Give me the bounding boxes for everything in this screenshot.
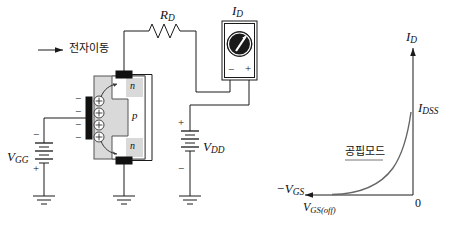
ammeter-dial — [227, 32, 252, 57]
drain-wire — [124, 31, 145, 75]
region-label-p: p — [132, 110, 138, 121]
gate-minus-sign-4: − — [75, 132, 81, 143]
circuit-and-graph-svg — [0, 0, 453, 232]
drain-contact-pad — [116, 71, 132, 78]
figure-canvas: 전자이동 RD ID − + n p n − − − − VGG − + VDD… — [0, 0, 453, 232]
vgs-off-marker-label: VGS(off) — [303, 201, 336, 215]
vgg-negative-sign: − — [33, 129, 39, 140]
ammeter-minus-terminal: − — [228, 64, 234, 75]
vgg-ground-symbol — [33, 196, 55, 204]
source-contact-pad — [116, 157, 132, 164]
region-label-n-top: n — [130, 81, 135, 91]
vdd-ground-symbol — [179, 196, 201, 204]
vgg-label: VGG — [7, 150, 28, 166]
vdd-negative-sign: − — [178, 163, 184, 174]
gate-electrode — [86, 97, 92, 139]
gate-minus-sign-2: − — [75, 106, 81, 117]
ammeter-label: ID — [232, 4, 243, 20]
graph-y-axis-label: ID — [406, 30, 417, 46]
graph-origin-label: 0 — [415, 197, 421, 209]
graph-x-axis-label: −VGS — [276, 182, 304, 198]
idss-marker-label: IDSS — [418, 101, 438, 117]
electron-flow-label: 전자이동 — [69, 43, 109, 54]
vdd-positive-sign: + — [178, 117, 184, 128]
gate-minus-sign-3: − — [75, 119, 81, 130]
resistor-RD-symbol — [145, 24, 196, 38]
circuit-group — [33, 21, 257, 204]
transfer-curve-graph — [305, 48, 413, 195]
ammeter-plus-terminal: + — [245, 63, 251, 74]
vgg-positive-sign: + — [33, 163, 39, 174]
depletion-mode-annotation: 공핍모드 — [345, 146, 385, 157]
source-ground-symbol — [113, 196, 135, 204]
ammeter-to-source-wire — [190, 80, 249, 131]
resistor-label: RD — [160, 8, 175, 24]
region-label-n-bottom: n — [130, 141, 135, 151]
gate-minus-sign-1: − — [75, 93, 81, 104]
vdd-label: VDD — [203, 140, 224, 156]
